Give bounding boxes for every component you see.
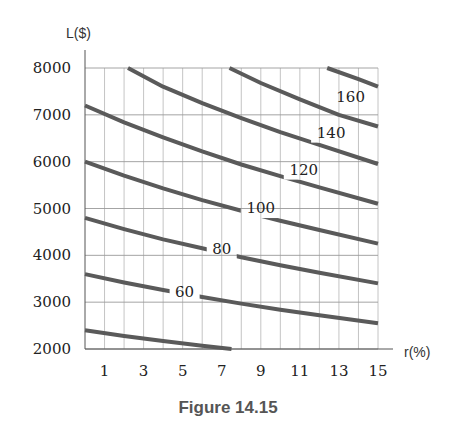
contour-label: 80: [212, 240, 231, 258]
y-tick-label: 8000: [33, 59, 71, 77]
contour-label: 140: [317, 124, 346, 142]
contour-line-80: [85, 218, 378, 284]
y-tick-label: 2000: [33, 340, 71, 358]
x-tick-label: 11: [290, 362, 309, 380]
contour-line-40: [85, 330, 232, 349]
y-axis-label: L($): [66, 25, 91, 41]
contour-label: 100: [246, 199, 275, 217]
y-tick-label: 7000: [33, 106, 71, 124]
contour-label: 120: [289, 161, 318, 179]
x-tick-label: 5: [178, 362, 188, 380]
x-tick-label: 3: [139, 362, 149, 380]
contour-line-180: [327, 68, 378, 87]
contour-chart: 200030004000500060007000800013579111315L…: [0, 0, 456, 400]
x-tick-label: 1: [100, 362, 110, 380]
y-tick-label: 3000: [33, 293, 71, 311]
contour-label: 160: [336, 88, 365, 106]
contour-line-60: [85, 274, 378, 323]
y-tick-label: 5000: [33, 200, 71, 218]
x-tick-label: 13: [329, 362, 348, 380]
y-tick-label: 4000: [33, 246, 71, 264]
figure-caption: Figure 14.15: [0, 398, 456, 418]
x-tick-label: 9: [256, 362, 266, 380]
contour-label: 60: [175, 283, 194, 301]
y-tick-label: 6000: [33, 153, 71, 171]
contour-line-120: [85, 106, 378, 204]
x-axis-label: r(%): [404, 344, 430, 360]
x-tick-label: 7: [217, 362, 227, 380]
x-tick-label: 15: [368, 362, 387, 380]
